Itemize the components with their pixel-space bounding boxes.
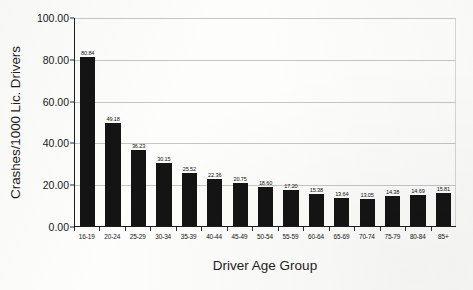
x-axis-tick-mark [150, 227, 151, 231]
bar-value-label: 17.20 [284, 183, 297, 189]
bar-value-label: 13.05 [361, 192, 374, 198]
bar-value-label: 36.23 [132, 143, 145, 149]
x-axis-slot: 30-34 [150, 227, 175, 247]
bar[interactable]: 18.60 [258, 187, 273, 226]
bar-value-label: 14.69 [411, 188, 424, 194]
bar[interactable]: 49.18 [105, 123, 120, 226]
bar[interactable]: 22.36 [207, 179, 222, 226]
x-axis-slot: 40-44 [201, 227, 226, 247]
bar[interactable]: 30.15 [156, 163, 171, 226]
x-axis-slot: 55-59 [278, 227, 303, 247]
y-axis-title: Crashes/1000 Lic. Drivers [2, 0, 28, 245]
bar-slot: 17.20 [278, 18, 303, 226]
x-axis-tick-labels: 16-1920-2425-2930-3435-3940-4445-4950-54… [74, 227, 456, 247]
bar[interactable]: 13.64 [334, 198, 349, 227]
bar-series: 80.8449.1836.2330.1525.5222.3620.7518.60… [75, 18, 456, 226]
x-axis-tick-label: 55-59 [283, 233, 299, 240]
x-axis-slot: 70-74 [354, 227, 379, 247]
x-axis-tick-mark [278, 227, 279, 231]
bar[interactable]: 14.38 [385, 196, 400, 226]
x-axis-tick-mark [227, 227, 228, 231]
bar-value-label: 14.38 [386, 189, 399, 195]
x-axis-title: Driver Age Group [74, 258, 456, 273]
chart-screenshot: Crashes/1000 Lic. Drivers 0.0020.0040.00… [0, 0, 473, 290]
bar-slot: 13.05 [354, 18, 379, 226]
bar-value-label: 22.36 [208, 172, 221, 178]
bar-slot: 18.60 [253, 18, 278, 226]
x-axis-slot: 45-49 [227, 227, 252, 247]
bar-value-label: 25.52 [183, 166, 196, 172]
y-axis-tick-label: 60.00 [43, 96, 69, 108]
bar[interactable]: 25.52 [182, 173, 197, 226]
x-axis-slot: 25-29 [125, 227, 150, 247]
x-axis-tick-label: 50-54 [257, 233, 273, 240]
x-axis-slot: 20-24 [99, 227, 124, 247]
x-axis-tick-mark [201, 227, 202, 231]
bar-slot: 13.64 [329, 18, 354, 226]
x-axis-slot: 80-84 [405, 227, 430, 247]
x-axis-tick-label: 40-44 [206, 233, 222, 240]
x-axis-slot: 35-39 [176, 227, 201, 247]
bar-slot: 36.23 [126, 18, 151, 226]
x-axis-tick-mark [431, 227, 432, 231]
x-axis-slot: 85+ [431, 227, 456, 247]
x-axis-tick-mark [99, 227, 100, 231]
bar-slot: 22.36 [202, 18, 227, 226]
bar-value-label: 15.81 [437, 186, 450, 192]
bar-slot: 20.75 [227, 18, 252, 226]
x-axis-slot: 50-54 [252, 227, 277, 247]
bar[interactable]: 13.05 [360, 199, 375, 226]
x-axis-tick-label: 65-69 [333, 233, 349, 240]
x-axis-tick-label: 85+ [438, 233, 449, 240]
bar[interactable]: 36.23 [131, 150, 146, 226]
x-axis-tick-label: 35-39 [181, 233, 197, 240]
bar[interactable]: 15.38 [309, 194, 324, 226]
y-axis-tick-labels: 0.0020.0040.0060.0080.00100.00 [26, 18, 74, 227]
bar[interactable]: 17.20 [283, 190, 298, 226]
x-axis-tick-mark [380, 227, 381, 231]
x-axis-tick-mark [125, 227, 126, 231]
y-axis-tick-label: 100.00 [37, 12, 69, 24]
bar-value-label: 18.60 [259, 180, 272, 186]
plot-area: 80.8449.1836.2330.1525.5222.3620.7518.60… [74, 18, 456, 227]
bar-value-label: 15.38 [310, 187, 323, 193]
bar[interactable]: 20.75 [233, 183, 248, 226]
y-axis-title-label: Crashes/1000 Lic. Drivers [8, 46, 23, 199]
bar-value-label: 13.64 [335, 191, 348, 197]
bar-slot: 49.18 [100, 18, 125, 226]
x-axis-tick-mark [74, 227, 75, 231]
x-axis-tick-label: 30-34 [155, 233, 171, 240]
bar-slot: 15.38 [304, 18, 329, 226]
bar-value-label: 80.84 [81, 50, 94, 56]
x-axis-tick-mark [405, 227, 406, 231]
x-axis-tick-label: 20-24 [104, 233, 120, 240]
bar-value-label: 20.75 [234, 176, 247, 182]
bar-slot: 15.81 [431, 18, 456, 226]
bar-value-label: 30.15 [157, 156, 170, 162]
x-axis-tick-mark [329, 227, 330, 231]
x-axis-slot: 65-69 [329, 227, 354, 247]
x-axis-tick-label: 75-79 [384, 233, 400, 240]
bar-slot: 14.38 [380, 18, 405, 226]
x-axis-tick-label: 45-49 [232, 233, 248, 240]
x-axis-tick-mark [303, 227, 304, 231]
bar-slot: 14.69 [405, 18, 430, 226]
bar[interactable]: 15.81 [436, 193, 451, 226]
x-axis-tick-label: 80-84 [410, 233, 426, 240]
bar[interactable]: 14.69 [410, 195, 425, 226]
x-axis-tick-mark [354, 227, 355, 231]
bar[interactable]: 80.84 [80, 57, 95, 226]
y-axis-tick-label: 40.00 [43, 137, 69, 149]
x-axis-tick-mark [252, 227, 253, 231]
bar-slot: 25.52 [177, 18, 202, 226]
x-axis-tick-label: 25-29 [130, 233, 146, 240]
bar-slot: 80.84 [75, 18, 100, 226]
bar-value-label: 49.18 [106, 116, 119, 122]
x-axis-slot: 60-64 [303, 227, 328, 247]
x-axis-tick-mark [176, 227, 177, 231]
y-axis-tick-label: 80.00 [43, 54, 69, 66]
x-axis-slot: 16-19 [74, 227, 99, 247]
x-axis-tick-label: 16-19 [79, 233, 95, 240]
y-axis-tick-label: 20.00 [43, 179, 69, 191]
y-axis-tick-label: 0.00 [49, 221, 69, 233]
